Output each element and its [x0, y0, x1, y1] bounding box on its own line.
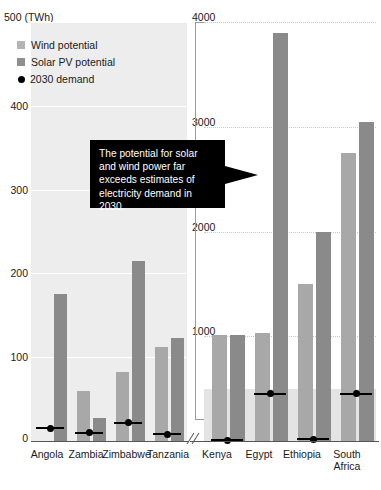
legend-label-demand: 2030 demand	[30, 73, 94, 85]
chart-figure: 500 (TWh) 400 300 200 100 0	[0, 0, 381, 490]
right-spine-cap-top	[195, 22, 204, 23]
demand-dot	[47, 425, 54, 432]
left-ytick-400: 400	[10, 101, 28, 111]
axis-break-icon	[186, 432, 202, 448]
demand-dot	[353, 390, 360, 397]
legend-swatch-demand-dot-icon	[18, 76, 25, 83]
bar-wind-kenya	[212, 335, 227, 441]
panel-right: 4000 3000 2000 1000 Kenya Egypt Ethiopia…	[190, 0, 381, 490]
bar-wind-egypt	[255, 333, 270, 441]
callout-text: The potential for solar and wind power f…	[99, 147, 217, 213]
left-x-axis-line	[31, 441, 189, 442]
bar-group-kenya	[211, 22, 249, 441]
bar-solar-ethiopia	[316, 232, 331, 442]
left-ytick-300: 300	[10, 185, 28, 195]
bar-wind-zimbabwe	[116, 372, 129, 441]
legend: Wind potential Solar PV potential 2030 d…	[17, 38, 115, 89]
bar-group-egypt	[254, 22, 292, 441]
callout-annotation: The potential for solar and wind power f…	[90, 140, 225, 208]
bar-solar-egypt	[273, 33, 288, 442]
callout-pointer-icon	[225, 166, 258, 184]
bar-wind-ethiopia	[298, 284, 313, 441]
bar-group-south-africa	[340, 22, 378, 441]
bar-group-zimbabwe	[115, 22, 148, 441]
left-ytick-0: 0	[22, 433, 28, 443]
legend-label-wind: Wind potential	[31, 39, 98, 51]
demand-dot	[86, 429, 93, 436]
demand-dot	[267, 390, 274, 397]
bar-solar-angola	[54, 294, 67, 441]
left-ytick-200: 200	[10, 268, 28, 278]
legend-item-wind: Wind potential	[17, 38, 115, 52]
bar-solar-zambia	[93, 418, 106, 441]
bar-solar-tanzania	[171, 338, 184, 441]
demand-dot	[224, 437, 231, 444]
demand-dot	[125, 419, 132, 426]
xcat-south-africa: South Africa	[319, 449, 375, 472]
bar-solar-zimbabwe	[132, 261, 145, 441]
right-x-axis-line	[190, 441, 379, 442]
legend-swatch-solar-icon	[17, 58, 25, 66]
legend-swatch-wind-icon	[17, 41, 25, 49]
bar-solar-kenya	[230, 335, 245, 441]
right-ytick-4000: 4000	[192, 12, 215, 22]
bar-group-ethiopia	[297, 22, 335, 441]
bar-wind-tanzania	[155, 347, 168, 441]
legend-label-solar: Solar PV potential	[31, 56, 115, 68]
legend-item-solar: Solar PV potential	[17, 55, 115, 69]
right-spine-cap-bottom	[195, 419, 204, 420]
left-ytick-100: 100	[10, 352, 28, 362]
right-plot-area	[204, 22, 376, 441]
bar-group-tanzania	[154, 22, 187, 441]
xcat-tanzania: Tanzania	[143, 449, 193, 461]
bar-wind-south-africa	[341, 153, 356, 441]
demand-dot	[164, 431, 171, 438]
legend-item-demand: 2030 demand	[17, 72, 115, 86]
panel-left: 500 (TWh) 400 300 200 100 0	[0, 0, 190, 490]
right-y-axis-spine	[195, 22, 196, 419]
